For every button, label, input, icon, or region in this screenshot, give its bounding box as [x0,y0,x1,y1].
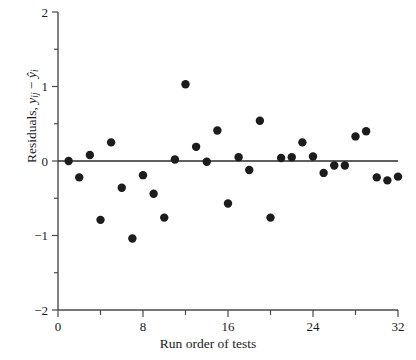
data-point [149,190,157,198]
data-point [266,213,274,221]
data-point [118,184,126,192]
y-axis-title-term1-subscript: ij [30,92,40,97]
data-point [341,161,349,169]
y-axis-title-term2: ŷ [24,72,39,78]
scatter-plot-canvas: −2−101208162432 [0,0,416,360]
x-axis-tick-label: 16 [222,319,236,334]
x-axis-tick-label: 24 [307,319,321,334]
data-point [234,153,242,161]
y-axis-tick-label: 0 [42,154,49,169]
data-point [107,138,115,146]
data-point [394,172,402,180]
x-axis-title: Run order of tests [0,336,416,352]
data-point [351,132,359,140]
data-point [96,216,104,224]
data-point [224,199,232,207]
data-point [192,143,200,151]
data-point [128,234,136,242]
data-point [75,173,83,181]
x-axis-tick-label: 32 [392,319,405,334]
data-point [86,151,94,159]
data-point [383,176,391,184]
data-point [277,154,285,162]
y-axis-title-minus: − [24,78,39,92]
y-axis-title-term2-subscript: i [30,69,40,72]
x-axis-title-text: Run order of tests [160,336,256,351]
x-axis-tick-label: 0 [55,319,62,334]
x-axis-tick-label: 8 [140,319,147,334]
y-axis-tick-label: −2 [34,303,48,318]
data-point [245,166,253,174]
data-point [256,117,264,125]
data-point [319,169,327,177]
data-point [362,127,370,135]
y-axis-title: Residuals, yij − ŷi [24,36,40,196]
data-point [298,138,306,146]
data-point [373,173,381,181]
data-point [213,126,221,134]
data-point [203,158,211,166]
y-axis-tick-label: −1 [34,228,48,243]
data-point [160,213,168,221]
data-point [139,171,147,179]
y-axis-tick-label: 1 [42,79,49,94]
data-point [64,157,72,165]
data-point [288,153,296,161]
data-point [309,152,317,160]
y-axis-tick-label: 2 [42,5,49,20]
data-point [330,161,338,169]
data-point [181,80,189,88]
y-axis-title-term1: y [24,98,39,104]
data-point [171,155,179,163]
y-axis-title-prefix: Residuals, [24,104,39,163]
residuals-scatter-figure: −2−101208162432 Residuals, yij − ŷi Run … [0,0,416,360]
